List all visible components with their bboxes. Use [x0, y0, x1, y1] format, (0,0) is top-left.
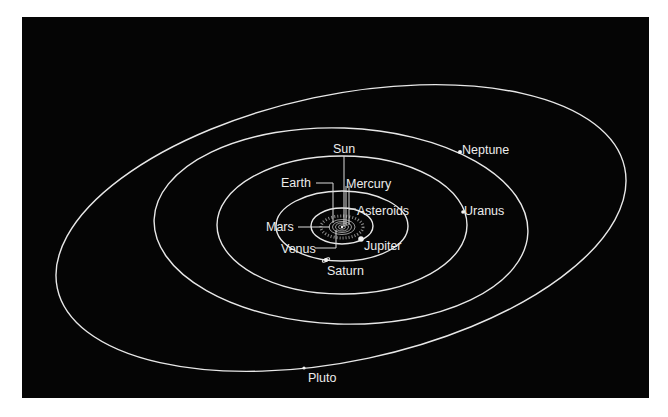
- saturn-marker: [322, 257, 330, 263]
- earth-leader-line: [316, 183, 333, 223]
- label-pluto: Pluto: [308, 371, 337, 385]
- sun-marker: [341, 226, 343, 228]
- label-uranus: Uranus: [464, 204, 504, 218]
- label-jupiter: Jupiter: [364, 239, 402, 253]
- pluto-marker: [302, 366, 305, 369]
- label-sun: Sun: [333, 142, 355, 156]
- label-asteroids: Asteroids: [357, 204, 409, 218]
- label-venus: Venus: [281, 242, 316, 256]
- label-earth: Earth: [281, 176, 311, 190]
- label-mercury: Mercury: [346, 177, 392, 191]
- label-saturn: Saturn: [327, 264, 364, 278]
- label-mars: Mars: [266, 220, 294, 234]
- jupiter-marker: [358, 236, 364, 242]
- label-neptune: Neptune: [462, 143, 509, 157]
- solar-system-diagram: Sun Earth Mercury Asteroids Mars Venus J…: [0, 0, 668, 417]
